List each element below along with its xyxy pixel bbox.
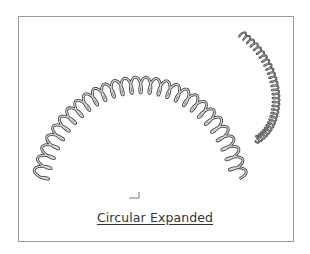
small-curled-spring-icon <box>239 32 280 142</box>
figure-caption: Circular Expanded <box>0 210 310 225</box>
large-arc-spring-icon <box>34 77 246 179</box>
coordinate-axis-icon <box>129 192 139 198</box>
